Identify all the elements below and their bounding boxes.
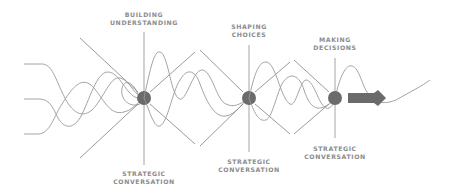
wave-line-3 (24, 82, 142, 134)
wave-segment-2a (249, 62, 336, 108)
stage-3-bottom-label: STRATEGIC CONVERSATION (304, 145, 366, 161)
stage-1-bottom-label-line-1: STRATEGIC (113, 170, 175, 178)
stage-1-top-label-line-2: UNDERSTANDING (110, 19, 178, 27)
stage-2-top-label: SHAPING CHOICES (231, 23, 267, 39)
stage-3-top-label-line-1: MAKING (313, 36, 356, 44)
stage-1-top-label-line-1: BUILDING (110, 11, 178, 19)
stage-3-top-label: MAKING DECISIONS (313, 36, 356, 52)
wave-segment-1a (144, 52, 246, 106)
stage-3-node-group (294, 58, 430, 138)
stage-2-top-label-line-1: SHAPING (231, 23, 267, 31)
stage-1-top-label: BUILDING UNDERSTANDING (110, 11, 178, 27)
wave-segment-2b (249, 76, 336, 120)
stage-2-bottom-label-line-1: STRATEGIC (218, 158, 280, 166)
stage-3-spoke-lower-left (294, 104, 329, 134)
stage-1-node-group (80, 32, 195, 165)
stage-3-spoke-upper-left (294, 60, 329, 92)
stage-1-spoke-lower-right (150, 104, 195, 144)
stage-2-bottom-label: STRATEGIC CONVERSATION (218, 158, 280, 174)
stage-3-bottom-label-line-2: CONVERSATION (304, 153, 366, 161)
stage-2-bottom-label-line-2: CONVERSATION (218, 166, 280, 174)
stage-1-bottom-label: STRATEGIC CONVERSATION (113, 170, 175, 186)
stage-3-top-label-line-2: DECISIONS (313, 44, 356, 52)
stage-2-top-label-line-2: CHOICES (231, 31, 267, 39)
stage-2-spoke-upper-left (200, 50, 243, 92)
input-waves (24, 64, 144, 134)
stage-2-spoke-lower-left (200, 104, 243, 146)
stage-2-spoke-upper-right (255, 62, 290, 92)
wave-segment-1b (144, 72, 248, 126)
wave-line-2 (24, 72, 138, 126)
stage-3-node (328, 91, 342, 105)
mid-waves-2 (249, 62, 336, 120)
mid-waves-1 (144, 52, 248, 126)
stage-3-bottom-label-line-1: STRATEGIC (304, 145, 366, 153)
stage-1-bottom-label-line-2: CONVERSATION (113, 178, 175, 186)
